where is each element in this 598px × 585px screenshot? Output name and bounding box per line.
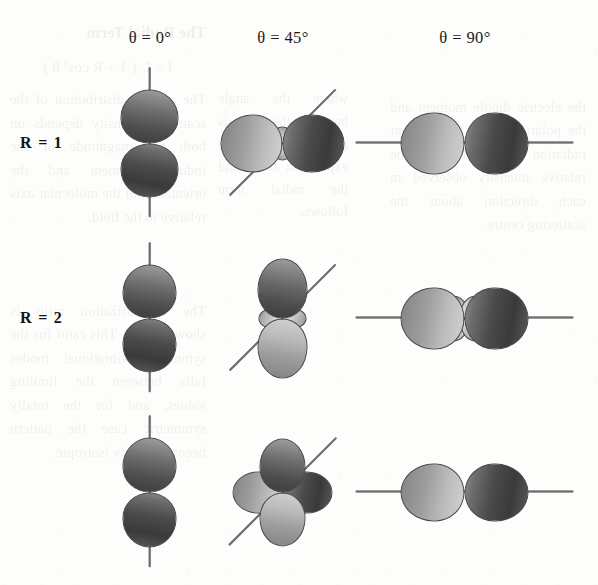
scanned-page: the electric dipole moment and the polar…: [0, 0, 598, 585]
lobe-270deg-dark: [123, 493, 177, 548]
column-header-theta-45: θ = 45°: [257, 28, 308, 48]
lobe-180deg-light: [401, 288, 465, 350]
lobe-90deg-dark-rev: [258, 259, 308, 319]
lobe-270deg-dark: [121, 144, 179, 198]
lobe-270deg-light: [258, 319, 308, 379]
column-header-theta-0: θ = 0°: [129, 28, 172, 48]
lobe-90deg-dark-rev: [260, 439, 306, 493]
pattern-cell-r1-c1: [150, 143, 151, 144]
lobe-0deg-dark: [283, 115, 345, 173]
lobe-180deg-light: [221, 115, 283, 173]
lobe-0deg-dark: [465, 113, 529, 175]
lobe-0deg-dark: [465, 288, 529, 350]
pattern-cell-r2-c1: [150, 318, 151, 319]
pattern-cell-r1-c2: [283, 143, 284, 144]
lobe-270deg-light: [260, 493, 306, 547]
lobe-90deg-dark-rev: [123, 438, 177, 493]
pattern-cell-r3-c3: [465, 492, 466, 493]
lobe-270deg-dark: [123, 319, 177, 373]
lobe-90deg-dark-rev: [121, 90, 179, 144]
pattern-cell-r2-c3: [465, 318, 466, 319]
pattern-cell-r1-c3: [465, 143, 466, 144]
lobe-180deg-light: [401, 464, 465, 522]
row-label-row-r2: R = 2: [20, 309, 63, 327]
column-header-theta-90: θ = 90°: [439, 28, 490, 48]
pattern-cell-r3-c2: [283, 492, 284, 493]
radiation-pattern-figure: θ = 0°θ = 45°θ = 90° R = 1R = 2: [0, 0, 598, 585]
lobe-180deg-light: [401, 113, 465, 175]
pattern-cell-r3-c1: [150, 492, 151, 493]
lobe-90deg-dark-rev: [123, 265, 177, 319]
row-label-row-r1: R = 1: [20, 134, 63, 152]
pattern-cell-r2-c2: [283, 318, 284, 319]
lobe-0deg-dark: [465, 464, 529, 522]
